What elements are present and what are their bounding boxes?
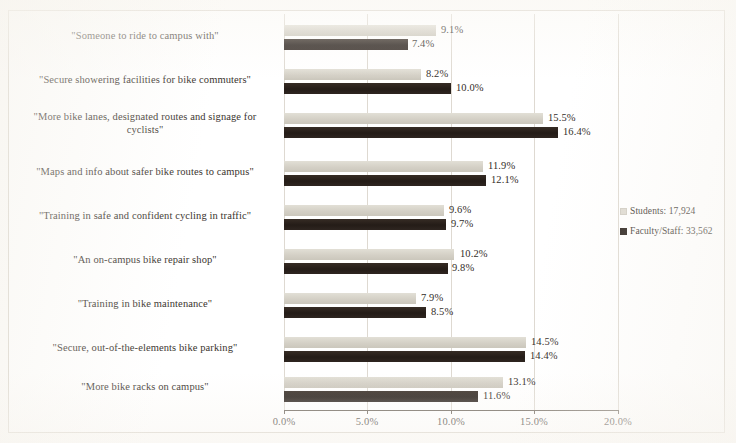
x-tick-mark-1	[367, 410, 368, 414]
x-tick-mark-2	[451, 410, 452, 414]
bar-value-students: 10.2%	[460, 248, 488, 259]
category-label: "More bike racks on campus"	[14, 381, 276, 394]
legend-swatch-students-icon	[620, 208, 627, 215]
bar-faculty	[284, 391, 478, 402]
x-tick-label-2: 10.0%	[421, 416, 481, 427]
bar-value-students: 9.1%	[441, 24, 463, 35]
x-tick-mark-4	[618, 410, 619, 414]
bar-students	[284, 69, 421, 80]
bar-students	[284, 113, 543, 124]
bar-faculty	[284, 307, 426, 318]
bar-students	[284, 25, 436, 36]
category-label: "Training in safe and confident cycling …	[14, 210, 276, 223]
x-tick-mark-0	[284, 410, 285, 414]
bar-faculty	[284, 83, 451, 94]
bar-students	[284, 377, 503, 388]
bar-value-faculty: 10.0%	[456, 82, 484, 93]
bar-value-students: 13.1%	[508, 376, 536, 387]
x-tick-label-4: 20.0%	[588, 416, 648, 427]
bar-value-faculty: 14.4%	[530, 350, 558, 361]
x-tick-label-1: 5.0%	[337, 416, 397, 427]
legend-swatch-faculty-icon	[620, 228, 627, 235]
bar-faculty	[284, 351, 525, 362]
bar-value-faculty: 7.4%	[412, 38, 434, 49]
category-label: "Secure showering facilities for bike co…	[14, 74, 276, 87]
category-label: "Maps and info about safer bike routes t…	[14, 166, 276, 179]
bar-value-faculty: 8.5%	[431, 306, 453, 317]
bar-students	[284, 249, 454, 260]
bar-value-students: 7.9%	[421, 292, 443, 303]
bar-faculty	[284, 39, 408, 50]
category-label: "An on-campus bike repair shop"	[14, 254, 276, 267]
x-tick-label-3: 15.0%	[504, 416, 564, 427]
bar-value-students: 14.5%	[531, 336, 559, 347]
legend-label-students: Students: 17,924	[630, 205, 695, 218]
bar-students	[284, 205, 444, 216]
legend-item-students: Students: 17,924	[620, 205, 732, 218]
bar-value-faculty: 9.7%	[451, 218, 473, 229]
category-label: "More bike lanes, designated routes and …	[14, 111, 276, 136]
bar-value-faculty: 9.8%	[452, 262, 474, 273]
bar-value-faculty: 11.6%	[483, 390, 510, 401]
bar-value-faculty: 16.4%	[563, 126, 591, 137]
bar-value-faculty: 12.1%	[491, 174, 519, 185]
bar-faculty	[284, 175, 486, 186]
bar-students	[284, 337, 526, 348]
bar-value-students: 8.2%	[426, 68, 448, 79]
bar-faculty	[284, 127, 558, 138]
bar-students	[284, 293, 416, 304]
bar-value-students: 11.9%	[488, 160, 515, 171]
legend-label-faculty: Faculty/Staff: 33,562	[630, 225, 713, 238]
bar-faculty	[284, 263, 448, 274]
bar-students	[284, 161, 483, 172]
bar-faculty	[284, 219, 446, 230]
category-label: "Someone to ride to campus with"	[14, 30, 276, 43]
legend-item-faculty: Faculty/Staff: 33,562	[620, 225, 732, 238]
x-tick-label-0: 0.0%	[254, 416, 314, 427]
x-tick-mark-3	[534, 410, 535, 414]
category-label: "Secure, out-of-the-elements bike parkin…	[14, 342, 276, 355]
bar-value-students: 15.5%	[548, 112, 576, 123]
chart-legend: Students: 17,924 Faculty/Staff: 33,562	[620, 205, 732, 245]
chart-figure: 0.0% 5.0% 10.0% 15.0% 20.0% "Someone to …	[0, 0, 736, 443]
category-label: "Training in bike maintenance"	[14, 298, 276, 311]
gridline-20	[618, 14, 619, 410]
bar-value-students: 9.6%	[449, 204, 471, 215]
